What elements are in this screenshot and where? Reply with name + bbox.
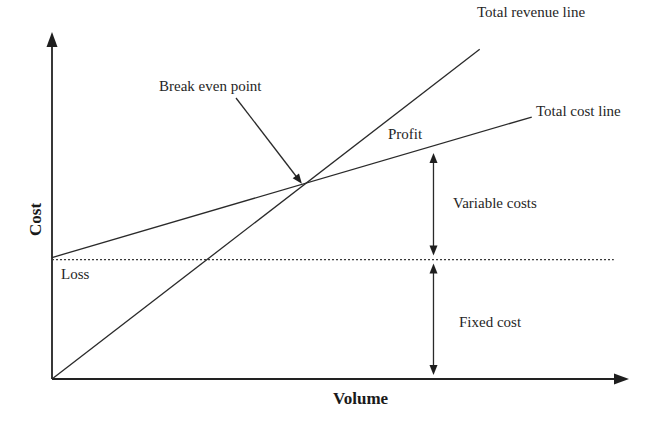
y-axis-arrowhead-icon [47, 32, 58, 47]
break-even-diagram: Total revenue line Total cost line Break… [0, 0, 657, 430]
variable-costs-label: Variable costs [453, 195, 537, 211]
fixed-cost-arrowhead-up-icon [430, 264, 438, 274]
total-revenue-label: Total revenue line [477, 4, 585, 20]
y-axis-label: Cost [26, 203, 45, 236]
loss-label: Loss [61, 266, 90, 282]
break-even-pointer-arrow [236, 98, 297, 177]
total-cost-label: Total cost line [536, 103, 621, 119]
x-axis-arrowhead-icon [614, 374, 629, 385]
variable-costs-arrowhead-up-icon [430, 153, 438, 163]
total-cost-line [52, 117, 532, 258]
break-even-arrowhead-icon [293, 174, 302, 184]
fixed-cost-label: Fixed cost [459, 314, 522, 330]
x-axis-label: Volume [333, 389, 389, 408]
fixed-cost-arrowhead-down-icon [430, 365, 438, 375]
total-revenue-line [52, 49, 480, 379]
profit-label: Profit [388, 126, 423, 142]
variable-costs-arrowhead-down-icon [430, 246, 438, 256]
break-even-label: Break even point [159, 78, 262, 94]
